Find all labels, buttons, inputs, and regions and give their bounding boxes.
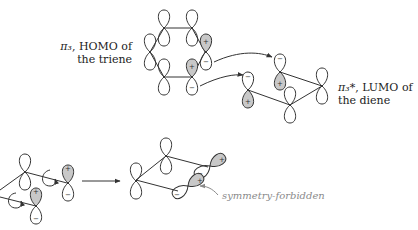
sign-minus: − [245,73,251,81]
sign-plus: + [203,38,209,46]
lumo-label: π₃*, LUMO of the diene [338,81,418,107]
sign-minus: − [33,215,39,223]
homo-label-line1: , HOMO of [72,40,132,53]
lumo-symbol: π₃* [338,81,355,94]
sign-plus: + [277,80,283,88]
homo-symbol: π₃ [60,40,72,53]
sign-plus: + [245,98,251,106]
sign-minus: − [277,55,283,63]
homo-label-line2: the triene [60,53,132,66]
sign-minus: − [174,191,180,199]
lumo-label-line1: , LUMO of [355,81,412,94]
sign-plus: + [33,188,39,196]
sign-minus: − [203,58,209,66]
sign-plus: + [219,156,225,164]
orbital-diagram: + − + − − + − + + − + − + − + − [0,0,418,230]
sign-plus: + [197,177,203,185]
sign-plus: + [65,165,71,173]
symmetry-forbidden-label: symmetry-forbidden [222,190,325,201]
lumo-label-line2: the diene [338,94,418,107]
sign-minus: − [65,191,71,199]
homo-label: π₃, HOMO of the triene [60,40,132,66]
sign-plus: + [189,63,195,71]
sign-minus: − [189,84,195,92]
